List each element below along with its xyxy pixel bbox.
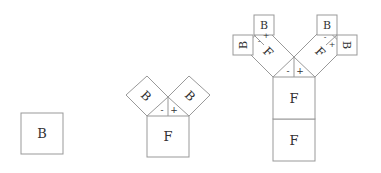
minus-sign-left: -	[258, 37, 261, 46]
label-f-bottom: F	[289, 133, 298, 148]
label-f: F	[163, 129, 172, 144]
plus-sign-left: +	[263, 31, 270, 40]
minus-sign: -	[160, 105, 163, 115]
plus-sign-main: +	[296, 66, 304, 76]
figure-single-block: B	[21, 113, 63, 154]
label-b: B	[37, 126, 47, 141]
figure-two-level-split: F F F F - + B B - + B B - +	[233, 15, 357, 161]
label-b3: B	[323, 19, 331, 32]
label-f-top: F	[289, 91, 298, 106]
figure-one-split: F B B - +	[126, 76, 210, 157]
label-b4: B	[340, 41, 353, 49]
diagram-canvas: B F B B - + F F F F - + B B - +	[0, 0, 381, 173]
plus-sign: +	[170, 105, 178, 115]
minus-sign-right: -	[324, 33, 327, 42]
minus-sign-main: -	[286, 66, 289, 76]
label-b2: B	[237, 41, 250, 49]
plus-sign-right: +	[329, 40, 336, 49]
